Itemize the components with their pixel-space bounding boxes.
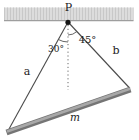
rod-highlight (7, 89, 130, 132)
angle-label-45: 45° (79, 34, 97, 45)
string-b-label: b (112, 44, 119, 57)
string-b-line (68, 22, 130, 89)
angle-arc-45 (68, 32, 77, 36)
point-label: P (65, 1, 73, 14)
angle-label-30: 30° (48, 44, 64, 54)
attachment-point-dot (65, 20, 70, 25)
physics-diagram: P 30° 45° a b m (0, 0, 139, 140)
diagram-canvas: P 30° 45° a b m (0, 0, 139, 140)
string-a-label: a (24, 65, 31, 78)
angle-arc-30 (58, 40, 68, 43)
rod-label: m (70, 111, 80, 123)
